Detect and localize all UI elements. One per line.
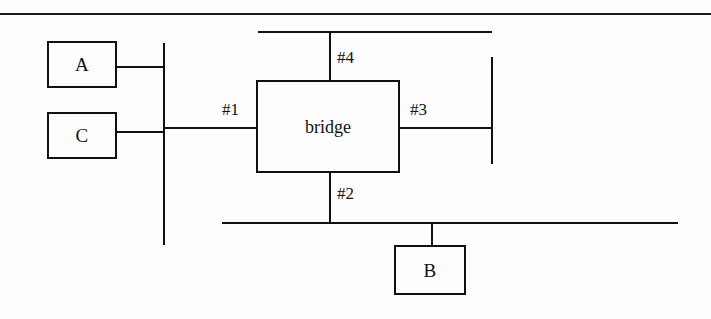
node-host-c[interactable]: C [47, 112, 117, 159]
link-bus-bottom-to-host-b [431, 222, 433, 247]
bus-left [163, 43, 165, 245]
network-diagram-figure: A C bridge B #1 #2 #3 #4 [0, 0, 711, 319]
node-host-c-label: C [76, 126, 89, 145]
link-port-2-to-bus-bottom [329, 172, 331, 224]
bus-top [258, 31, 492, 33]
link-host-a-to-bus-left [117, 66, 165, 68]
node-bridge-label: bridge [305, 118, 351, 136]
port-label-1: #1 [222, 101, 239, 118]
link-port-4-to-bus-top [329, 31, 331, 82]
link-bus-left-to-port-1 [163, 127, 258, 129]
node-bridge[interactable]: bridge [256, 80, 400, 173]
link-host-c-to-bus-left [117, 131, 165, 133]
node-host-a-label: A [75, 55, 89, 74]
node-host-b[interactable]: B [394, 245, 466, 295]
port-label-3: #3 [410, 101, 427, 118]
node-host-b-label: B [424, 261, 437, 280]
bus-bottom [222, 222, 678, 224]
node-host-a[interactable]: A [47, 41, 117, 88]
port-label-2: #2 [337, 185, 354, 202]
page-rule-top [0, 13, 711, 15]
port-label-4: #4 [337, 49, 354, 66]
bus-right [491, 57, 493, 164]
link-port-3-to-bus-right [400, 127, 493, 129]
